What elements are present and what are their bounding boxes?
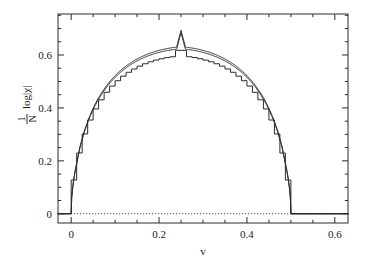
x-tick-label: 0.4 bbox=[240, 228, 254, 240]
y-tick-label: 0.2 bbox=[38, 155, 52, 167]
chart-canvas: 00.20.40.6 00.20.40.6 v log|χ| 1 N bbox=[0, 0, 378, 273]
plot-frame bbox=[58, 14, 348, 223]
y-tick-label: 0.4 bbox=[38, 102, 52, 114]
x-tick-label: 0.2 bbox=[152, 228, 166, 240]
y-axis-title-denominator: N bbox=[27, 115, 38, 122]
y-axis-title-numerator: 1 bbox=[16, 117, 27, 122]
y-tick-label: 0.6 bbox=[38, 49, 52, 61]
axis-ticks bbox=[58, 14, 348, 223]
y-tick-label: 0 bbox=[47, 208, 53, 220]
y-axis-title: log|χ| 1 N bbox=[16, 86, 38, 124]
smooth-upper-curve bbox=[58, 30, 348, 213]
x-axis-title: v bbox=[200, 245, 206, 257]
y-axis-title-log: log|χ| bbox=[20, 86, 32, 109]
x-tick-label: 0.6 bbox=[328, 228, 342, 240]
y-tick-labels: 00.20.40.6 bbox=[38, 49, 52, 220]
x-tick-labels: 00.20.40.6 bbox=[68, 228, 342, 240]
x-tick-label: 0 bbox=[68, 228, 74, 240]
staircase-curve bbox=[58, 50, 348, 213]
chart-figure: 00.20.40.6 00.20.40.6 v log|χ| 1 N bbox=[0, 0, 378, 273]
